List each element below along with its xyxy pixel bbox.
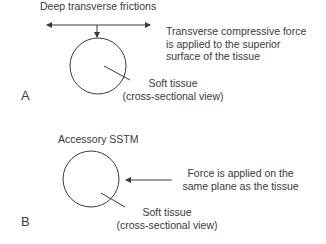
panel-b-title: Accessory SSTM	[58, 133, 139, 146]
panel-a-force-note: Transverse compressive force is applied …	[166, 25, 306, 63]
tissue-label-line: (cross-sectional view)	[118, 90, 228, 103]
panel-b-tissue-label: Soft tissue (cross-sectional view)	[112, 206, 222, 231]
tissue-leader-line-b	[101, 193, 125, 207]
panel-a-tissue-label: Soft tissue (cross-sectional view)	[118, 77, 228, 102]
panel-a-letter: A	[21, 88, 30, 103]
tissue-label-line: Soft tissue	[112, 206, 222, 219]
panel-b-letter: B	[21, 214, 30, 229]
panel-a-title: Deep transverse frictions	[40, 0, 156, 13]
tissue-label-line: Soft tissue	[118, 77, 228, 90]
force-note-line: Force is applied on the	[178, 167, 303, 180]
panel-b-force-note: Force is applied on the same plane as th…	[178, 167, 303, 192]
tissue-label-line: (cross-sectional view)	[112, 219, 222, 232]
force-note-line: same plane as the tissue	[178, 180, 303, 193]
force-note-line: is applied to the superior	[166, 38, 306, 51]
panel-b-graphics	[63, 151, 172, 207]
force-note-line: Transverse compressive force	[166, 25, 306, 38]
force-note-line: surface of the tissue	[166, 50, 306, 63]
